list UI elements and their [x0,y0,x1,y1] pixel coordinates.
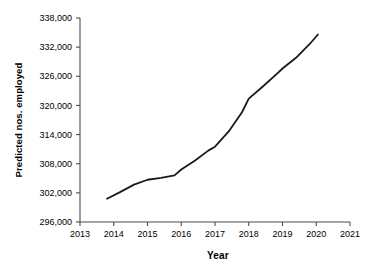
x-tick-label: 2017 [205,229,225,239]
x-tick-label: 2013 [70,229,90,239]
y-tick-label: 338,000 [39,13,72,23]
y-axis-title: Predicted nos. employed [13,63,24,178]
x-axis-ticks [80,222,350,226]
x-tick-label: 2021 [340,229,360,239]
data-series-line [107,35,318,199]
x-axis-title: Year [207,250,229,261]
y-tick-label: 302,000 [39,188,72,198]
y-tick-label: 296,000 [39,217,72,227]
y-tick-label: 326,000 [39,71,72,81]
x-tick-label: 2014 [104,229,124,239]
line-chart-plot: 296,000302,000308,000314,000320,000326,0… [0,0,368,274]
y-tick-label: 308,000 [39,159,72,169]
x-tick-label: 2018 [239,229,259,239]
y-tick-label: 314,000 [39,130,72,140]
chart-figure: 296,000302,000308,000314,000320,000326,0… [0,0,368,274]
x-tick-label: 2016 [171,229,191,239]
x-axis-tick-labels: 201320142015201620172018201920202021 [70,229,360,239]
y-tick-label: 320,000 [39,101,72,111]
y-tick-label: 332,000 [39,42,72,52]
x-tick-label: 2019 [272,229,292,239]
x-tick-label: 2020 [306,229,326,239]
y-axis-ticks [76,18,80,222]
y-axis-tick-labels: 296,000302,000308,000314,000320,000326,0… [39,13,72,227]
x-tick-label: 2015 [137,229,157,239]
